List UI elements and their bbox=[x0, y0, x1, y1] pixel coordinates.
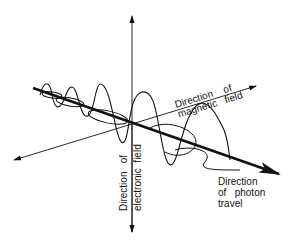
photon-travel-label: Direction of photon travel bbox=[218, 176, 265, 209]
magnetic-field-label: Direction of magnetic field bbox=[173, 80, 243, 120]
photon-label-line3: travel bbox=[218, 198, 242, 209]
em-wave-diagram: Direction of magnetic field Direction of… bbox=[0, 0, 299, 246]
photon-travel-axis bbox=[33, 88, 279, 174]
electric-label-line1: Direction of bbox=[118, 155, 129, 211]
photon-label-line1: Direction bbox=[218, 176, 257, 187]
electric-label-line2: electronic field bbox=[132, 144, 143, 211]
electric-field-label: Direction of electronic field bbox=[118, 144, 143, 211]
photon-label-line2: of photon bbox=[218, 187, 265, 198]
